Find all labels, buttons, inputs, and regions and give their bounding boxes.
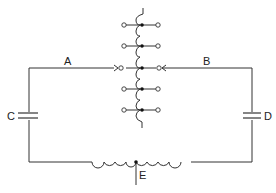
capacitor-c (18, 113, 38, 118)
label-e: E (139, 170, 146, 181)
label-d: D (264, 111, 272, 122)
wire-b (162, 68, 252, 112)
clip-a-icon (114, 65, 118, 71)
wire-c-bottom (29, 120, 92, 162)
label-a: A (64, 56, 71, 67)
label-b: B (203, 56, 210, 67)
label-c: C (7, 111, 15, 122)
circuit-diagram (0, 0, 276, 193)
wire-d-bottom (191, 120, 252, 162)
tap-dots (134, 23, 144, 164)
capacitor-d (243, 113, 261, 118)
wire-a (29, 68, 114, 112)
